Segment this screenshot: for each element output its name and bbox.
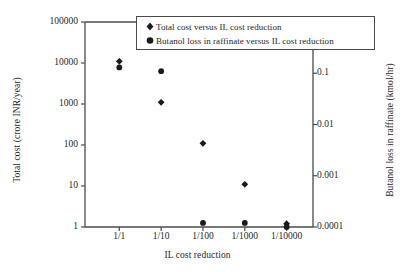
legend-label-butanol-loss: Butanol loss in raffinate versus IL cost… bbox=[156, 36, 334, 46]
data-point-total-cost bbox=[116, 58, 123, 65]
diamond-marker-icon bbox=[144, 21, 156, 32]
data-point-total-cost bbox=[241, 181, 248, 188]
data-point-butanol-loss bbox=[200, 220, 206, 226]
axis-tick-marks bbox=[81, 22, 317, 231]
data-point-butanol-loss bbox=[284, 224, 290, 230]
legend-item-butanol-loss: Butanol loss in raffinate versus IL cost… bbox=[144, 34, 369, 47]
data-point-butanol-loss bbox=[158, 68, 164, 74]
data-point-total-cost bbox=[200, 140, 207, 147]
data-point-butanol-loss bbox=[242, 220, 248, 226]
chart-legend: Total cost versus IL cost reduction Buta… bbox=[136, 16, 375, 50]
legend-item-total-cost: Total cost versus IL cost reduction bbox=[144, 20, 369, 33]
data-point-total-cost bbox=[158, 99, 165, 106]
legend-label-total-cost: Total cost versus IL cost reduction bbox=[156, 22, 282, 32]
series-butanol-loss-points bbox=[116, 65, 289, 230]
circle-marker-icon bbox=[144, 35, 156, 46]
data-point-butanol-loss bbox=[116, 65, 122, 71]
axis-spines bbox=[85, 22, 313, 227]
series-total-cost-points bbox=[116, 58, 290, 227]
chart-figure: Total cost (crore INR/year) Butanol loss… bbox=[0, 0, 415, 272]
